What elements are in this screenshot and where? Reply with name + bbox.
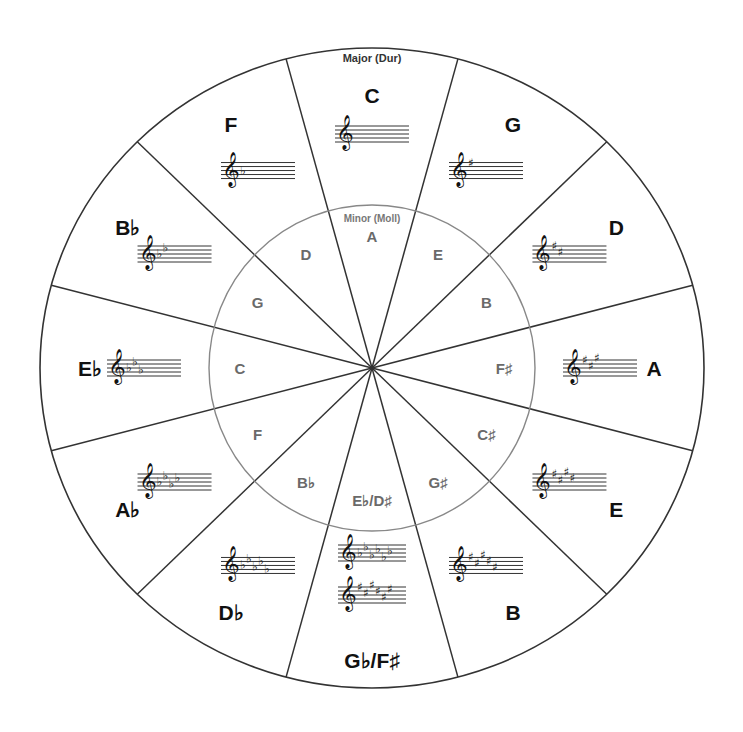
- minor-key-label: G: [252, 294, 264, 311]
- sharp-icon: ♯: [492, 560, 498, 574]
- flat-icon: ♭: [157, 475, 163, 489]
- minor-key-label: C: [235, 360, 246, 377]
- minor-key-label: F: [253, 426, 262, 443]
- minor-ring-title: Minor (Moll): [344, 213, 401, 224]
- flat-icon: ♭: [246, 552, 252, 566]
- sharp-icon: ♯: [468, 156, 474, 170]
- minor-key-label: F♯: [496, 360, 513, 377]
- minor-key-label: A: [367, 228, 378, 245]
- major-key-label: E: [609, 498, 623, 521]
- flat-icon: ♭: [252, 560, 258, 574]
- treble-clef-icon: 𝄞: [336, 114, 354, 151]
- minor-key-label: E♭/D♯: [352, 492, 392, 509]
- minor-key-label: B: [481, 294, 492, 311]
- flat-icon: ♭: [240, 558, 246, 572]
- flat-icon: ♭: [264, 562, 270, 576]
- flat-icon: ♭: [258, 554, 264, 568]
- major-key-label: G♭/F♯: [344, 649, 400, 672]
- sharp-icon: ♯: [486, 554, 492, 568]
- flat-icon: ♭: [126, 361, 132, 375]
- major-key-label: B: [505, 601, 520, 624]
- treble-clef-icon: 𝄞: [139, 234, 157, 271]
- sharp-icon: ♯: [474, 556, 480, 570]
- minor-key-label: C♯: [477, 426, 496, 443]
- sharp-icon: ♯: [588, 359, 594, 373]
- major-key-label: G: [505, 113, 521, 136]
- major-key-label: D: [609, 216, 624, 239]
- flat-icon: ♭: [240, 164, 246, 178]
- major-key-label: E♭: [78, 357, 102, 380]
- treble-clef-icon: 𝄞: [564, 348, 582, 385]
- flat-icon: ♭: [357, 546, 363, 560]
- major-key-label: B♭: [115, 216, 140, 239]
- sharp-icon: ♯: [582, 353, 588, 367]
- flat-icon: ♭: [375, 542, 381, 556]
- sharp-icon: ♯: [551, 239, 557, 253]
- major-key-label: A: [646, 357, 661, 380]
- sharp-icon: ♯: [557, 473, 563, 487]
- flat-icon: ♭: [369, 548, 375, 562]
- minor-key-label: B♭: [297, 474, 315, 491]
- sharp-icon: ♯: [569, 471, 575, 485]
- sharp-icon: ♯: [357, 580, 363, 594]
- sharp-icon: ♯: [594, 351, 600, 365]
- treble-clef-icon: 𝄞: [108, 348, 126, 385]
- sharp-icon: ♯: [375, 584, 381, 598]
- minor-key-label: E: [433, 246, 443, 263]
- treble-clef-icon: 𝄞: [533, 462, 551, 499]
- treble-clef-icon: 𝄞: [450, 545, 468, 582]
- treble-clef-icon: 𝄞: [139, 462, 157, 499]
- sharp-icon: ♯: [551, 467, 557, 481]
- sharp-icon: ♯: [480, 548, 486, 562]
- flat-icon: ♭: [381, 550, 387, 564]
- sharp-icon: ♯: [387, 582, 393, 596]
- sharp-icon: ♯: [369, 578, 375, 592]
- flat-icon: ♭: [363, 540, 369, 554]
- flat-icon: ♭: [175, 471, 181, 485]
- minor-key-label: D: [301, 246, 312, 263]
- sharp-icon: ♯: [563, 465, 569, 479]
- treble-clef-icon: 𝄞: [222, 151, 240, 188]
- flat-icon: ♭: [163, 241, 169, 255]
- minor-key-label: G♯: [428, 474, 448, 491]
- major-key-label: A♭: [115, 498, 140, 521]
- treble-clef-icon: 𝄞: [339, 575, 357, 612]
- sharp-icon: ♯: [557, 245, 563, 259]
- flat-icon: ♭: [169, 477, 175, 491]
- sharp-icon: ♯: [381, 590, 387, 604]
- treble-clef-icon: 𝄞: [533, 234, 551, 271]
- treble-clef-icon: 𝄞: [339, 533, 357, 570]
- sharp-icon: ♯: [468, 550, 474, 564]
- flat-icon: ♭: [132, 355, 138, 369]
- major-key-label: D♭: [218, 601, 243, 624]
- treble-clef-icon: 𝄞: [450, 151, 468, 188]
- major-key-label: C: [364, 84, 379, 107]
- sharp-icon: ♯: [363, 586, 369, 600]
- flat-icon: ♭: [387, 544, 393, 558]
- flat-icon: ♭: [138, 363, 144, 377]
- major-key-label: F: [225, 113, 238, 136]
- flat-icon: ♭: [157, 247, 163, 261]
- treble-clef-icon: 𝄞: [222, 545, 240, 582]
- major-ring-title: Major (Dur): [343, 52, 402, 64]
- circle-of-fifths-diagram: Major (Dur) Minor (Moll) CA𝄞GE𝄞♯DB𝄞♯♯AF♯…: [0, 0, 743, 732]
- flat-icon: ♭: [163, 469, 169, 483]
